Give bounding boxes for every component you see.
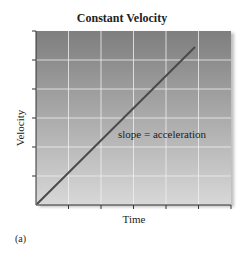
x-axis-label: Time bbox=[0, 213, 244, 225]
y-axis-label: Velocity bbox=[14, 98, 26, 158]
slope-annotation: slope = acceleration bbox=[118, 128, 206, 140]
panel-label: (a) bbox=[15, 233, 26, 244]
